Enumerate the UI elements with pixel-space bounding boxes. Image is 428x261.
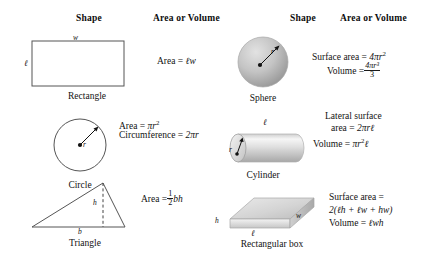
rectangle-figure bbox=[22, 30, 137, 92]
rectangle-caption: Rectangle bbox=[41, 91, 133, 101]
box-label-height: h bbox=[215, 216, 219, 225]
cylinder-vol-eq: = bbox=[345, 139, 350, 149]
cylinder-lat2-eq: = bbox=[349, 123, 354, 133]
sphere-vol-frac-den: 3 bbox=[364, 70, 380, 79]
column-header-area-left: Area or Volume bbox=[153, 13, 220, 23]
circle-formula-circumference: Circumference = 2πr bbox=[119, 129, 199, 142]
cylinder-caption: Cylinder bbox=[231, 170, 295, 180]
box-sa-lhs: Surface area bbox=[329, 192, 376, 202]
cylinder-lat2-rhs: 2πrℓ bbox=[357, 123, 374, 133]
cylinder-lat-lhs: Lateral surface bbox=[325, 111, 382, 121]
circle-circ-lhs: Circumference bbox=[119, 130, 175, 140]
box-formula-volume: Volume = ℓwh bbox=[329, 217, 384, 230]
sphere-figure bbox=[236, 35, 292, 91]
cylinder-label-radius: r bbox=[229, 145, 232, 154]
cylinder-vol-tail: ℓ bbox=[364, 139, 368, 149]
triangle-formula-area: Area =12bh bbox=[141, 190, 183, 208]
rectangle-formula-area: Area = ℓw bbox=[157, 55, 196, 68]
circle-figure bbox=[48, 113, 112, 177]
triangle-label-height: h bbox=[93, 198, 97, 207]
rectangle-label-width: w bbox=[73, 33, 78, 42]
sphere-caption: Sphere bbox=[234, 93, 292, 103]
column-header-shape-right: Shape bbox=[290, 13, 316, 23]
column-header-shape-left: Shape bbox=[76, 13, 102, 23]
cylinder-figure bbox=[224, 128, 306, 166]
triangle-caption: Triangle bbox=[40, 238, 130, 248]
cylinder-vol-rhs: πr bbox=[353, 139, 361, 149]
sphere-sa-lhs: Surface area bbox=[312, 52, 359, 62]
box-formula-surface-area-line2: 2(ℓh + ℓw + hw) bbox=[329, 204, 393, 217]
sphere-formula-volume: Volume =4πr³3 bbox=[327, 62, 380, 80]
box-label-length: ℓ bbox=[251, 228, 255, 238]
triangle-area-rhs: bh bbox=[173, 194, 183, 204]
box-formula-surface-area-line1: Surface area = bbox=[329, 191, 384, 204]
box-vol-lhs: Volume bbox=[329, 218, 358, 228]
circle-circ-eq: = bbox=[178, 130, 183, 140]
box-label-width: w bbox=[296, 211, 301, 220]
rectangle-formula-eq: = bbox=[178, 56, 183, 66]
triangle-label-base: b bbox=[78, 227, 82, 236]
column-header-area-right: Area or Volume bbox=[340, 13, 407, 23]
sphere-vol-lhs: Volume bbox=[327, 66, 356, 76]
circle-label-radius: r bbox=[83, 140, 86, 149]
triangle-area-lhs: Area bbox=[141, 194, 159, 204]
box-vol-rhs: ℓwh bbox=[369, 218, 384, 228]
cylinder-vol-lhs: Volume bbox=[313, 139, 342, 149]
rectangular-box-figure bbox=[222, 190, 322, 238]
sphere-vol-fraction: 4πr³3 bbox=[364, 62, 380, 80]
rectangle-formula-lhs: Area bbox=[157, 56, 175, 66]
circle-area-exponent: 2 bbox=[156, 119, 159, 126]
box-sa-rhs: 2(ℓh + ℓw + hw) bbox=[329, 205, 393, 215]
rectangular-box-caption: Rectangular box bbox=[220, 239, 324, 249]
sphere-vol-frac-num: 4πr³ bbox=[364, 62, 380, 70]
sphere-sa-exponent: 2 bbox=[383, 50, 386, 57]
rectangle-label-length: ℓ bbox=[24, 58, 28, 68]
rectangle-formula-rhs: ℓw bbox=[186, 56, 196, 66]
box-vol-eq: = bbox=[361, 218, 366, 228]
cylinder-formula-volume: Volume = πr2ℓ bbox=[313, 134, 368, 151]
cylinder-lat2-lhs: area bbox=[331, 123, 347, 133]
geometry-formula-table: Shape Area or Volume Shape Area or Volum… bbox=[0, 0, 428, 261]
sphere-label-radius: r bbox=[271, 47, 274, 56]
circle-circ-rhs: 2πr bbox=[186, 130, 199, 140]
cylinder-label-length: ℓ bbox=[263, 117, 267, 127]
box-sa-eq: = bbox=[379, 192, 384, 202]
